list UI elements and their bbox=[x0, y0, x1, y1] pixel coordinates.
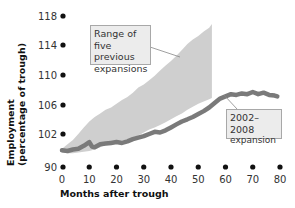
y-tick-dot bbox=[60, 164, 65, 169]
x-tick-label: 10 bbox=[83, 174, 96, 185]
x-tick-dot bbox=[168, 164, 173, 169]
y-tick-dot bbox=[60, 102, 65, 107]
x-tick-label: 30 bbox=[137, 174, 150, 185]
x-tick-dot bbox=[277, 164, 282, 169]
y-tick-label: 118 bbox=[38, 11, 57, 22]
y-tick-label: 114 bbox=[38, 40, 57, 51]
x-tick-label: 70 bbox=[246, 174, 259, 185]
x-tick-label: 50 bbox=[192, 174, 205, 185]
x-axis-title: Months after trough bbox=[60, 188, 169, 199]
x-tick-dot bbox=[223, 164, 228, 169]
y-tick-dot bbox=[60, 42, 65, 47]
y-tick-label: 90 bbox=[44, 162, 57, 173]
x-tick-label: 80 bbox=[274, 174, 287, 185]
band-annotation-line1: Range of five bbox=[94, 28, 147, 51]
band-annotation-leader bbox=[150, 47, 180, 57]
x-tick-dot bbox=[196, 164, 201, 169]
x-axis-ticks: 01020304050607080 bbox=[59, 164, 287, 185]
x-tick-label: 20 bbox=[110, 174, 123, 185]
x-tick-dot bbox=[114, 164, 119, 169]
x-tick-label: 40 bbox=[165, 174, 178, 185]
band-annotation-line3: expansions bbox=[94, 63, 147, 75]
y-tick-label: 102 bbox=[38, 129, 57, 140]
line-annotation-leader bbox=[224, 95, 237, 109]
y-tick-dot bbox=[60, 72, 65, 77]
line-annotation-line2: expansion bbox=[230, 135, 278, 147]
line-annotation-line1: 2002–2008 bbox=[230, 112, 278, 135]
y-axis-title-line2: (percentage of trough) bbox=[16, 43, 27, 166]
y-tick-dot bbox=[60, 13, 65, 18]
x-tick-dot bbox=[141, 164, 146, 169]
y-tick-label: 106 bbox=[38, 100, 57, 111]
y-axis-title-line1: Employment bbox=[5, 99, 16, 166]
x-tick-dot bbox=[250, 164, 255, 169]
x-tick-label: 60 bbox=[219, 174, 232, 185]
band-annotation-line2: previous bbox=[94, 51, 147, 63]
y-tick-label: 110 bbox=[38, 70, 57, 81]
x-tick-dot bbox=[87, 164, 92, 169]
y-tick-dot bbox=[60, 131, 65, 136]
line-annotation-box: 2002–2008 expansion bbox=[226, 109, 282, 139]
band-annotation-box: Range of five previous expansions bbox=[90, 25, 151, 65]
x-tick-label: 0 bbox=[59, 174, 65, 185]
